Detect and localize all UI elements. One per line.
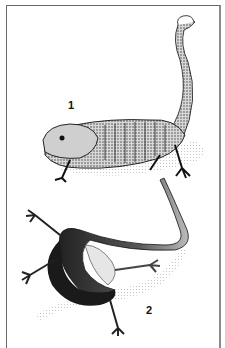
- illustration: [0, 0, 225, 348]
- figure-label-1: 1: [68, 100, 74, 111]
- specimen-2: [22, 178, 188, 336]
- figure-label-2: 2: [146, 305, 152, 316]
